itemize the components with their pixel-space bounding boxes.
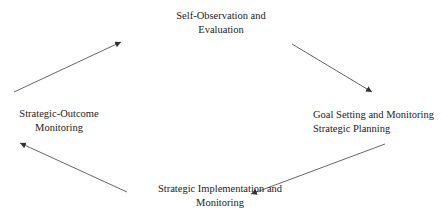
node-label-line: Monitoring <box>4 121 114 135</box>
arrow-outcome-to-observation <box>14 42 121 92</box>
node-goal-setting: Goal Setting and Monitoring Strategic Pl… <box>313 108 442 136</box>
node-label-line: Goal Setting and Monitoring <box>313 108 442 122</box>
node-label-line: Strategic Planning <box>313 122 442 136</box>
node-strategic-implementation: Strategic Implementation and Monitoring <box>130 182 310 210</box>
node-label-line: Self-Observation and <box>146 9 296 23</box>
arrow-implementation-to-outcome <box>20 143 127 192</box>
node-label-line: Evaluation <box>146 23 296 37</box>
node-label-line: Monitoring <box>130 196 310 210</box>
node-label-line: Strategic-Outcome <box>4 107 114 121</box>
node-self-observation: Self-Observation and Evaluation <box>146 9 296 37</box>
arrow-observation-to-goal <box>292 44 372 92</box>
node-strategic-outcome: Strategic-Outcome Monitoring <box>4 107 114 135</box>
node-label-line: Strategic Implementation and <box>130 182 310 196</box>
